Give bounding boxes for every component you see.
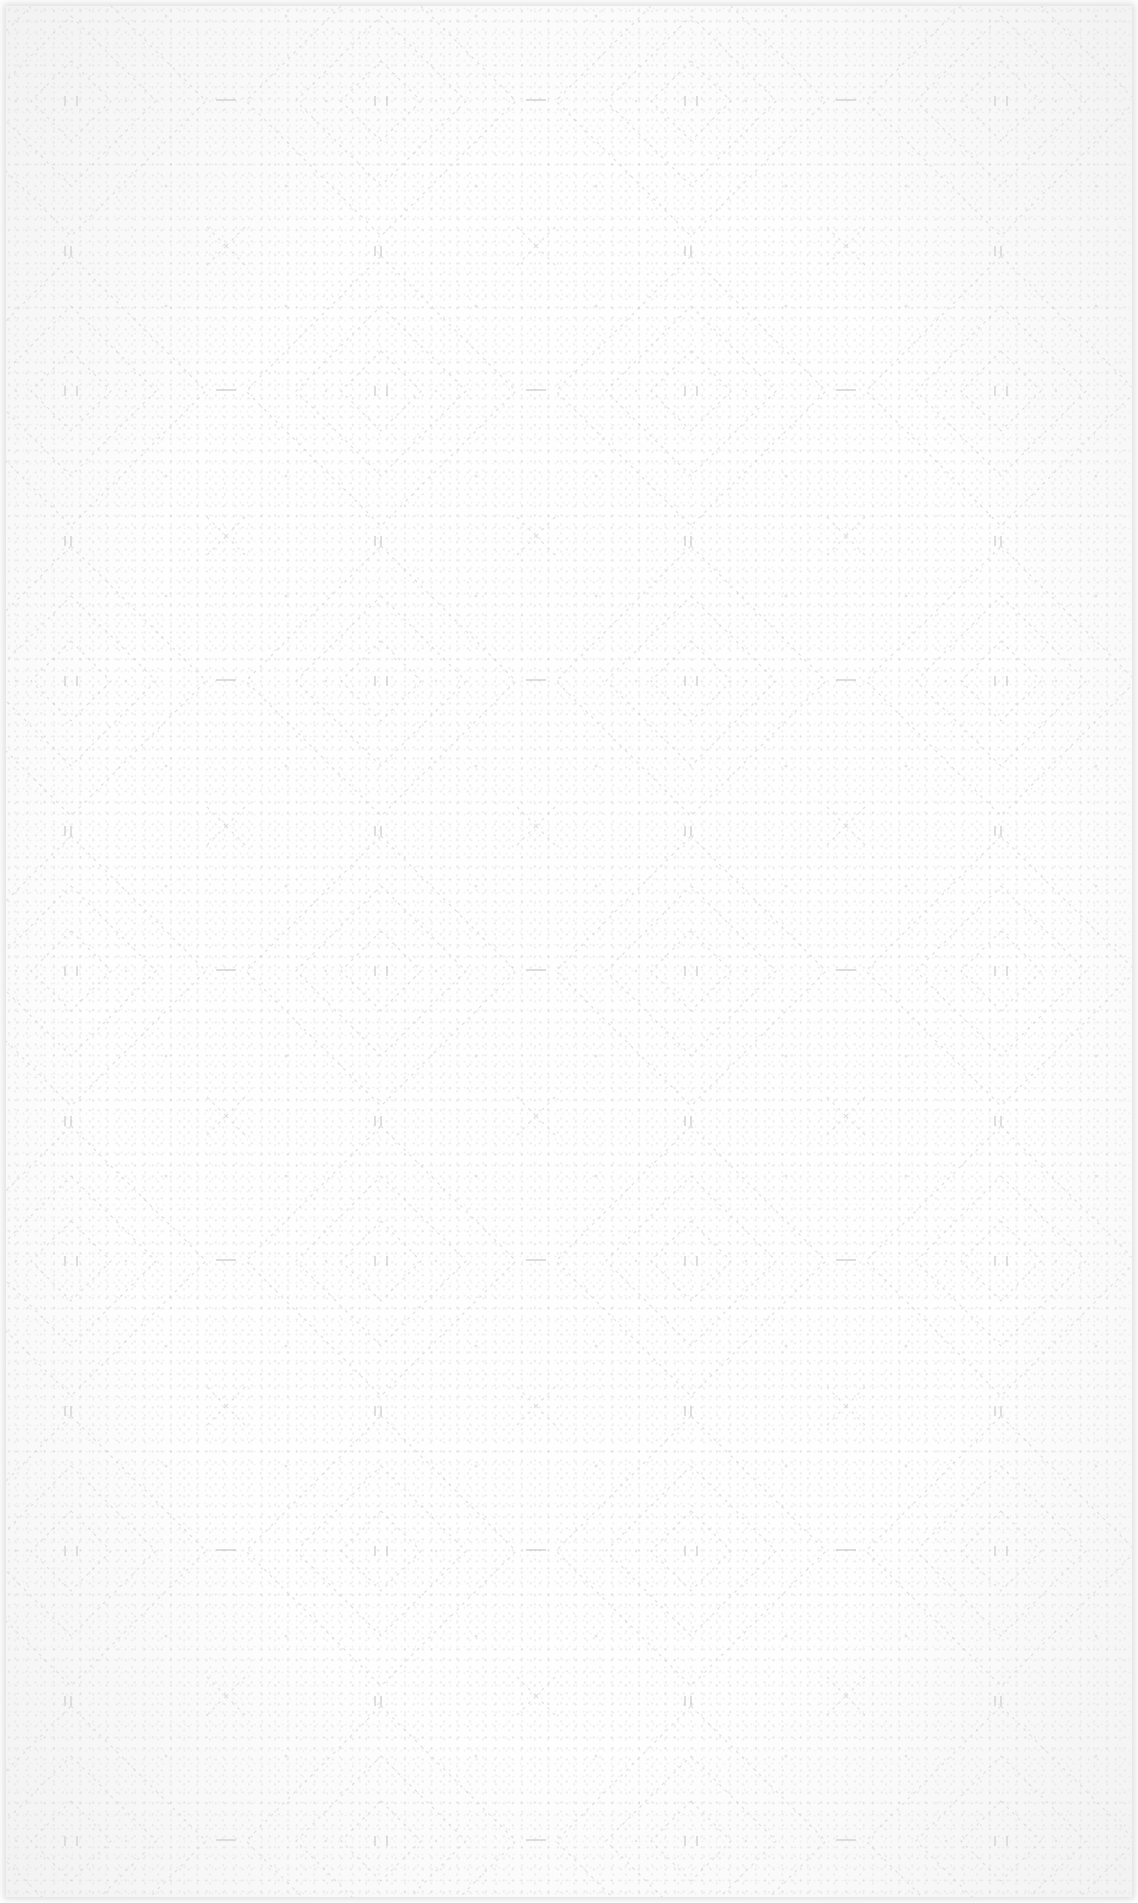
paper-towel-photo (0, 0, 1138, 1903)
edge-vignette (6, 6, 1132, 1897)
paper-sheet (6, 6, 1132, 1897)
